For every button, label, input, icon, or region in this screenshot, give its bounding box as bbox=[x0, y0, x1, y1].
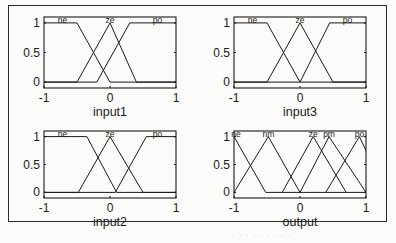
mf-line-ne bbox=[234, 137, 366, 193]
y-tick-label: 1 bbox=[33, 16, 40, 30]
x-tick-label: 1 bbox=[363, 91, 370, 105]
mf-label-po: po bbox=[153, 129, 163, 139]
series-group bbox=[44, 23, 176, 82]
x-tick-label: -1 bbox=[39, 201, 50, 215]
subplot-output: -10100.51outputnenmzepmpo bbox=[213, 129, 385, 229]
mf-label-ze: ze bbox=[309, 129, 318, 139]
mf-label-ze: ze bbox=[106, 15, 115, 25]
y-tick-label: 0.5 bbox=[213, 158, 230, 172]
mf-label-ze: ze bbox=[106, 129, 115, 139]
mf-line-ne bbox=[44, 23, 176, 82]
mf-label-po: po bbox=[153, 15, 163, 25]
x-axis-label: output bbox=[283, 215, 318, 229]
series-group bbox=[234, 23, 366, 82]
x-tick-label: 1 bbox=[363, 201, 370, 215]
membership-functions-figure: -10100.51input1nezepo-10100.51input3neze… bbox=[0, 0, 396, 243]
y-tick-label: 1 bbox=[223, 16, 230, 30]
y-tick-label: 0 bbox=[33, 75, 40, 89]
mf-label-po: po bbox=[343, 15, 353, 25]
y-tick-label: 0 bbox=[223, 185, 230, 199]
mf-line-ne bbox=[44, 137, 176, 193]
x-tick-label: 0 bbox=[107, 91, 114, 105]
subplot-input1: -10100.51input1nezepo bbox=[23, 15, 179, 119]
mf-label-nm: nm bbox=[262, 129, 274, 139]
x-tick-label: 1 bbox=[173, 201, 180, 215]
x-tick-label: -1 bbox=[229, 91, 240, 105]
mf-line-po bbox=[234, 23, 366, 82]
mf-label-pm: pm bbox=[323, 129, 335, 139]
subplot-input2: -10100.51input2nezepo bbox=[23, 129, 179, 229]
mf-line-ze bbox=[234, 23, 366, 82]
mf-label-ne: ne bbox=[58, 15, 68, 25]
mf-label-ne: ne bbox=[58, 129, 68, 139]
axes-box bbox=[234, 17, 366, 88]
mf-line-pm bbox=[300, 137, 366, 193]
y-tick-label: 0.5 bbox=[23, 158, 40, 172]
series-group bbox=[44, 137, 176, 193]
x-tick-label: 1 bbox=[173, 91, 180, 105]
mf-label-po: po bbox=[355, 129, 365, 139]
y-tick-label: 0 bbox=[33, 185, 40, 199]
x-tick-label: 0 bbox=[297, 201, 304, 215]
figure-caption: · · · · · · · · · bbox=[232, 231, 291, 240]
x-axis-label: input1 bbox=[93, 105, 127, 119]
x-tick-label: -1 bbox=[39, 91, 50, 105]
y-tick-label: 0 bbox=[223, 75, 230, 89]
mf-line-ze bbox=[44, 23, 176, 82]
mf-line-po bbox=[44, 23, 176, 82]
y-tick-label: 0.5 bbox=[213, 46, 230, 60]
mf-label-ne: ne bbox=[231, 129, 241, 139]
x-tick-label: 0 bbox=[107, 201, 114, 215]
subplot-input3: -10100.51input3nezepo bbox=[213, 15, 369, 119]
mf-line-ne bbox=[234, 23, 366, 82]
x-axis-label: input2 bbox=[93, 215, 127, 229]
mf-line-nm bbox=[234, 137, 300, 193]
axes-box bbox=[44, 131, 176, 198]
x-tick-label: 0 bbox=[297, 91, 304, 105]
mf-label-ne: ne bbox=[248, 15, 258, 25]
mf-label-ze: ze bbox=[296, 15, 305, 25]
x-tick-label: -1 bbox=[229, 201, 240, 215]
y-tick-label: 1 bbox=[33, 130, 40, 144]
axes-box bbox=[234, 131, 366, 198]
x-axis-label: input3 bbox=[283, 105, 317, 119]
y-tick-label: 1 bbox=[223, 130, 230, 144]
series-group bbox=[234, 137, 386, 193]
mf-line-po bbox=[44, 137, 176, 193]
mf-line-ze bbox=[44, 137, 176, 193]
axes-box bbox=[44, 17, 176, 88]
y-tick-label: 0.5 bbox=[23, 46, 40, 60]
